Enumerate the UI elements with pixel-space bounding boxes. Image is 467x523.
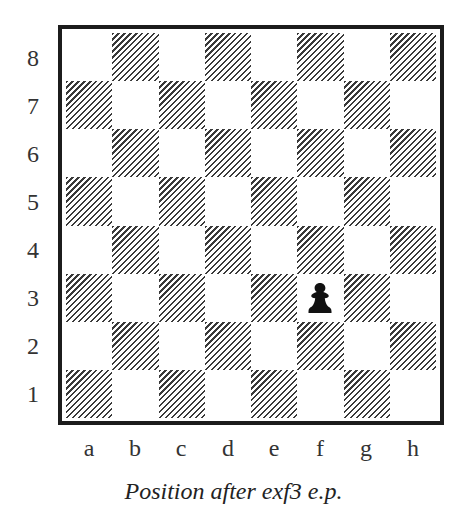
file-label-b: b — [112, 436, 158, 460]
square-c6 — [159, 129, 205, 177]
black-pawn-icon — [305, 281, 335, 315]
square-f1 — [297, 370, 343, 418]
square-f8 — [297, 33, 343, 81]
square-d2 — [205, 322, 251, 370]
square-e3 — [251, 274, 297, 322]
square-d1 — [205, 370, 251, 418]
square-a7 — [66, 81, 112, 129]
square-a8 — [66, 33, 112, 81]
square-h6 — [390, 129, 436, 177]
square-g3 — [344, 274, 390, 322]
square-e4 — [251, 226, 297, 274]
square-e8 — [251, 33, 297, 81]
square-c2 — [159, 322, 205, 370]
square-c4 — [159, 226, 205, 274]
square-e7 — [251, 81, 297, 129]
square-b3 — [112, 274, 158, 322]
square-h1 — [390, 370, 436, 418]
rank-label-5: 5 — [22, 190, 44, 214]
square-f2 — [297, 322, 343, 370]
square-d7 — [205, 81, 251, 129]
rank-label-3: 3 — [22, 286, 44, 310]
square-f4 — [297, 226, 343, 274]
square-d5 — [205, 177, 251, 225]
square-e1 — [251, 370, 297, 418]
square-h7 — [390, 81, 436, 129]
chess-board — [66, 33, 436, 418]
square-g4 — [344, 226, 390, 274]
square-h8 — [390, 33, 436, 81]
square-a1 — [66, 370, 112, 418]
rank-label-1: 1 — [22, 382, 44, 406]
rank-label-2: 2 — [22, 334, 44, 358]
rank-label-4: 4 — [22, 238, 44, 262]
square-b1 — [112, 370, 158, 418]
file-label-a: a — [66, 436, 112, 460]
file-label-g: g — [343, 436, 389, 460]
diagram-caption: Position after exf3 e.p. — [0, 478, 467, 505]
file-label-d: d — [205, 436, 251, 460]
square-b4 — [112, 226, 158, 274]
square-b5 — [112, 177, 158, 225]
file-label-f: f — [297, 436, 343, 460]
square-a3 — [66, 274, 112, 322]
square-g2 — [344, 322, 390, 370]
square-c3 — [159, 274, 205, 322]
square-d6 — [205, 129, 251, 177]
square-f5 — [297, 177, 343, 225]
file-label-c: c — [158, 436, 204, 460]
square-c7 — [159, 81, 205, 129]
square-b7 — [112, 81, 158, 129]
square-a5 — [66, 177, 112, 225]
square-c1 — [159, 370, 205, 418]
square-b8 — [112, 33, 158, 81]
file-label-e: e — [251, 436, 297, 460]
square-f3 — [297, 274, 343, 322]
square-d4 — [205, 226, 251, 274]
square-a6 — [66, 129, 112, 177]
square-g5 — [344, 177, 390, 225]
square-h2 — [390, 322, 436, 370]
rank-label-8: 8 — [22, 46, 44, 70]
square-c8 — [159, 33, 205, 81]
square-a2 — [66, 322, 112, 370]
square-d8 — [205, 33, 251, 81]
square-a4 — [66, 226, 112, 274]
square-f7 — [297, 81, 343, 129]
square-e6 — [251, 129, 297, 177]
square-g1 — [344, 370, 390, 418]
square-h4 — [390, 226, 436, 274]
square-d3 — [205, 274, 251, 322]
square-h5 — [390, 177, 436, 225]
square-g6 — [344, 129, 390, 177]
square-f6 — [297, 129, 343, 177]
rank-label-6: 6 — [22, 142, 44, 166]
rank-label-7: 7 — [22, 94, 44, 118]
square-e2 — [251, 322, 297, 370]
square-c5 — [159, 177, 205, 225]
square-b6 — [112, 129, 158, 177]
file-label-h: h — [390, 436, 436, 460]
square-e5 — [251, 177, 297, 225]
square-h3 — [390, 274, 436, 322]
square-b2 — [112, 322, 158, 370]
square-g8 — [344, 33, 390, 81]
square-g7 — [344, 81, 390, 129]
